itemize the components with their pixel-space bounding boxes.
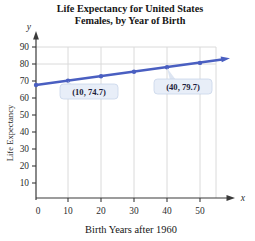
x-axis-title: Birth Years after 1960: [85, 224, 177, 235]
chart-title-line-2: Females, by Year of Birth: [75, 15, 186, 26]
x-tick-label-50: 50: [195, 206, 205, 216]
y-axis-title: Life Expectancy: [5, 104, 15, 161]
x-tick-label-0: 0: [36, 206, 41, 216]
y-tick-label-60: 60: [20, 93, 30, 103]
data-point-20: [99, 74, 103, 78]
x-axis-arrowhead: [227, 195, 236, 201]
y-tick-label-30: 30: [20, 144, 30, 154]
y-axis-arrowhead: [33, 31, 39, 40]
x-axis: x 0 10 20 30 40 50: [36, 192, 246, 216]
y-tick-label-90: 90: [20, 42, 30, 52]
trend-line-arrowhead: [221, 57, 230, 63]
y-axis-symbol: y: [26, 21, 32, 32]
life-expectancy-line-chart: Life Expectancy for United States Female…: [0, 0, 255, 241]
y-tick-label-10: 10: [20, 178, 30, 188]
y-tick-label-40: 40: [20, 127, 30, 137]
x-tick-label-10: 10: [63, 206, 73, 216]
y-tick-label-70: 70: [20, 76, 30, 86]
y-tick-label-20: 20: [20, 161, 30, 171]
grid-lines: [36, 47, 216, 198]
x-tick-label-30: 30: [129, 206, 139, 216]
chart-figure: Life Expectancy for United States Female…: [0, 0, 255, 241]
x-axis-symbol: x: [240, 192, 246, 203]
data-point-50: [198, 61, 202, 65]
y-axis: y 90 80 70 60 50 40 30 20 10: [20, 21, 39, 200]
data-point-10: [66, 78, 70, 82]
callout-label-40: (40, 79.7): [166, 82, 200, 92]
x-tick-label-20: 20: [96, 206, 106, 216]
data-point-30: [132, 70, 136, 74]
callout-pointer-40: [167, 68, 176, 80]
annotation-callout-10: (10, 74.7): [60, 81, 118, 99]
chart-title-line-1: Life Expectancy for United States: [57, 3, 203, 14]
callout-label-10: (10, 74.7): [72, 87, 106, 97]
data-point-40: [165, 65, 169, 69]
y-tick-label-50: 50: [20, 110, 30, 120]
y-tick-label-80: 80: [20, 59, 30, 69]
x-tick-label-40: 40: [162, 206, 172, 216]
data-point-0: [34, 83, 38, 87]
annotation-callout-40: (40, 79.7): [154, 68, 212, 94]
